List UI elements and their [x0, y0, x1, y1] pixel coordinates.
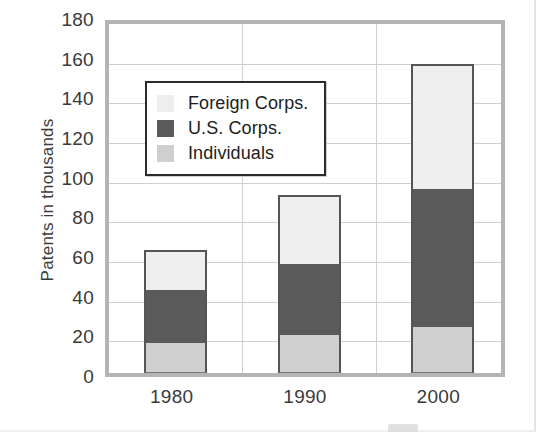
x-tick-2000: 2000: [368, 386, 508, 408]
bar-group-1990: [278, 16, 341, 373]
legend-item-us-corps: U.S. Corps.: [157, 116, 308, 141]
bar-segment-2000-individuals: [411, 327, 474, 373]
plot-area: [105, 20, 505, 377]
chart-legend: Foreign Corps. U.S. Corps. Individuals: [145, 81, 326, 176]
chart-figure: Patents in thousands 1801601401201008060…: [0, 0, 536, 432]
y-tick-180: 180: [18, 9, 94, 31]
y-axis-tick-labels: 180160140120100806040200: [18, 20, 94, 377]
scan-artifact: [388, 424, 418, 432]
bar-segment-1990-foreign-corps: [278, 195, 341, 264]
y-tick-0: 0: [18, 366, 94, 388]
y-tick-120: 120: [18, 128, 94, 150]
legend-label-us-corps: U.S. Corps.: [188, 118, 282, 139]
y-tick-40: 40: [18, 287, 94, 309]
y-tick-100: 100: [18, 168, 94, 190]
bar-group-1980: [144, 16, 207, 373]
legend-label-individuals: Individuals: [188, 143, 274, 164]
legend-swatch-foreign-corps: [157, 95, 174, 112]
y-tick-140: 140: [18, 88, 94, 110]
y-tick-160: 160: [18, 49, 94, 71]
gridline-vertical: [242, 24, 243, 373]
bar-segment-1980-u-s-corps: [144, 290, 207, 344]
y-tick-20: 20: [18, 326, 94, 348]
legend-item-foreign-corps: Foreign Corps.: [157, 91, 308, 116]
x-tick-1990: 1990: [235, 386, 375, 408]
legend-swatch-us-corps: [157, 120, 174, 137]
bar-segment-1990-u-s-corps: [278, 264, 341, 335]
bar-segment-2000-u-s-corps: [411, 189, 474, 328]
y-tick-80: 80: [18, 207, 94, 229]
legend-item-individuals: Individuals: [157, 141, 308, 166]
x-tick-1980: 1980: [102, 386, 242, 408]
bar-segment-1980-individuals: [144, 343, 207, 373]
gridline-vertical: [376, 24, 377, 373]
legend-label-foreign-corps: Foreign Corps.: [188, 93, 308, 114]
legend-swatch-individuals: [157, 145, 174, 162]
bar-group-2000: [411, 16, 474, 373]
y-tick-60: 60: [18, 247, 94, 269]
plot-inner: [109, 24, 501, 373]
bar-segment-2000-foreign-corps: [411, 64, 474, 189]
bar-segment-1980-foreign-corps: [144, 250, 207, 290]
bar-segment-1990-individuals: [278, 335, 341, 373]
